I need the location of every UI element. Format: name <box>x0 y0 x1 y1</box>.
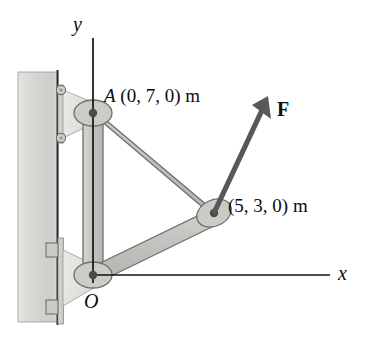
pin-dot-o <box>89 271 97 279</box>
lower-bracket-bolt-tab-top <box>46 243 58 257</box>
coordinate-axes <box>93 38 330 283</box>
point-a-label: A (0, 7, 0) m <box>104 86 200 105</box>
point-a-coords: (0, 7, 0) m <box>120 85 200 106</box>
statics-truss-figure: y x O A (0, 7, 0) m (5, 3, 0) m F <box>0 0 368 337</box>
truss-members <box>74 100 236 288</box>
x-axis-label: x <box>338 263 347 283</box>
wall-column <box>18 70 58 325</box>
lower-bracket-bolt-tab-bottom <box>46 300 58 314</box>
y-axis-label: y <box>73 14 82 34</box>
pin-dot-a <box>89 109 97 117</box>
point-a-name: A <box>104 85 116 106</box>
origin-label: O <box>84 291 98 311</box>
figure-canvas <box>0 0 368 337</box>
member-diagonal-AB <box>88 105 220 222</box>
point-b-label: (5, 3, 0) m <box>228 196 308 215</box>
force-label: F <box>277 99 289 119</box>
